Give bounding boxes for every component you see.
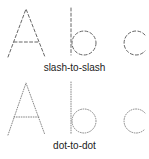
- letter-b-bowl: [72, 109, 96, 133]
- dotted-letters-graphic: [0, 78, 149, 144]
- dot-to-dot-panel: dot-to-dot: [0, 78, 149, 159]
- style-label: dot-to-dot: [0, 140, 149, 152]
- letter-c-tracing: [124, 31, 145, 55]
- slash-to-slash-panel: slash-to-slash: [0, 0, 149, 78]
- letter-a-tracing: [8, 9, 45, 57]
- letter-b-bowl: [72, 31, 96, 55]
- style-label: slash-to-slash: [0, 62, 149, 74]
- letter-c-tracing: [124, 109, 145, 133]
- dashed-letters-graphic: [0, 0, 149, 66]
- letter-a-tracing: [8, 83, 45, 135]
